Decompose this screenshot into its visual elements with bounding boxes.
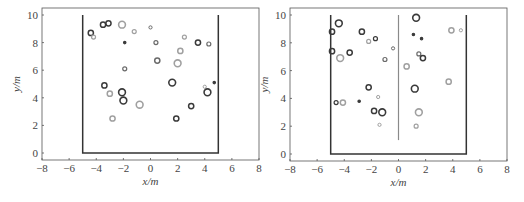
x-tick-label: −6 — [63, 162, 75, 174]
scatter-point — [107, 91, 112, 96]
scatter-point — [367, 39, 371, 43]
x-tick-label: −2 — [118, 162, 130, 174]
scatter-point — [124, 41, 126, 43]
y-tick-label: 0 — [281, 148, 287, 160]
x-tick-label: −4 — [90, 162, 102, 174]
scatter-point — [449, 28, 454, 33]
scatter-point — [102, 83, 107, 88]
scatter-point — [415, 109, 422, 116]
scatter-point — [446, 79, 451, 84]
scatter-point — [207, 42, 211, 46]
y-tick-label: 2 — [281, 120, 287, 132]
scatter-point — [378, 123, 381, 126]
scatter-point — [174, 116, 179, 121]
y-tick-label: 8 — [33, 37, 39, 49]
scatter-point — [417, 52, 421, 56]
scatter-point — [154, 41, 158, 45]
x-tick-label: 0 — [148, 162, 154, 174]
scatter-point — [337, 55, 344, 62]
scatter-point — [182, 35, 186, 39]
y-axis-label: y/m — [258, 77, 270, 94]
scatter-point — [106, 21, 111, 26]
x-tick-label: 2 — [175, 162, 181, 174]
scatter-point — [169, 79, 176, 86]
x-tick-label: −8 — [284, 163, 296, 175]
x-tick-label: −6 — [311, 163, 323, 175]
y-tick-label: 6 — [33, 64, 39, 76]
x-tick-label: −4 — [338, 163, 350, 175]
left-scatter-panel: −8−6−4−2024680246810x/my/m — [10, 8, 262, 187]
scatter-point — [411, 85, 418, 92]
scatter-point — [334, 101, 338, 105]
scatter-point — [414, 124, 418, 128]
scatter-point — [347, 50, 352, 55]
x-tick-label: 4 — [450, 163, 456, 175]
x-tick-label: 6 — [477, 163, 483, 175]
scatter-point — [413, 14, 420, 21]
y-tick-label: 10 — [27, 9, 39, 21]
scatter-point — [377, 95, 380, 98]
x-tick-label: 6 — [229, 162, 235, 174]
x-axis-label: x/m — [390, 176, 407, 188]
scatter-point — [203, 85, 206, 88]
scatter-point — [358, 100, 360, 102]
scatter-point — [132, 30, 136, 34]
scatter-point — [379, 109, 386, 116]
scatter-point — [204, 89, 211, 96]
scatter-point — [371, 108, 376, 113]
scatter-point — [100, 22, 105, 27]
chart-figure: −8−6−4−2024680246810x/my/m −8−6−4−202468… — [0, 0, 524, 202]
y-axis-label: y/m — [10, 76, 22, 93]
scatter-point — [459, 29, 462, 32]
scatter-point — [383, 57, 387, 61]
scatter-point — [92, 35, 96, 39]
scatter-point — [373, 37, 377, 41]
scatter-point — [404, 64, 409, 69]
scatter-point — [119, 89, 126, 96]
scatter-point — [155, 58, 160, 63]
scatter-point — [391, 47, 394, 50]
scatter-point — [119, 21, 126, 28]
scatter-point — [420, 37, 422, 39]
x-tick-label: 8 — [256, 162, 262, 174]
scatter-point — [359, 29, 364, 34]
axes-frame — [42, 8, 259, 160]
scatter-point — [120, 97, 127, 104]
scatter-point — [213, 81, 215, 83]
scatter-point — [178, 48, 183, 53]
x-tick-label: 8 — [504, 163, 510, 175]
right-scatter-panel: −8−6−4−2024680246810x/my/m — [258, 8, 510, 188]
scatter-point — [195, 40, 200, 45]
scatter-point — [420, 55, 425, 60]
x-tick-label: 2 — [423, 163, 429, 175]
x-tick-label: 0 — [396, 163, 402, 175]
y-tick-label: 8 — [281, 37, 287, 49]
scatter-point — [412, 33, 414, 35]
scatter-point — [136, 101, 143, 108]
scatter-point — [123, 67, 127, 71]
x-tick-label: −8 — [36, 162, 48, 174]
y-tick-label: 0 — [33, 147, 39, 159]
y-tick-label: 4 — [33, 92, 39, 104]
x-axis-label: x/m — [142, 175, 159, 187]
scatter-point — [110, 116, 115, 121]
x-tick-label: 4 — [202, 162, 208, 174]
x-tick-label: −2 — [366, 163, 378, 175]
scatter-point — [149, 26, 152, 29]
scatter-point — [366, 85, 371, 90]
y-tick-label: 10 — [275, 9, 287, 21]
y-tick-label: 4 — [281, 92, 287, 104]
y-tick-label: 2 — [33, 119, 39, 131]
scatter-point — [335, 20, 342, 27]
y-tick-label: 6 — [281, 65, 287, 77]
scatter-point — [189, 103, 194, 108]
scatter-point — [340, 100, 345, 105]
scatter-point — [174, 60, 181, 67]
